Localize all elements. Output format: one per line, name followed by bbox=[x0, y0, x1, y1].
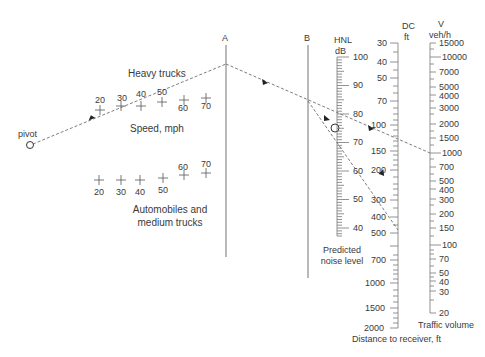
auto-speed-40: 40 bbox=[135, 188, 145, 197]
v-tick-20: 20 bbox=[439, 309, 449, 318]
hnl-tick-60: 60 bbox=[353, 167, 363, 176]
dc-unit: ft bbox=[404, 33, 409, 42]
dc-tick-500: 500 bbox=[371, 229, 386, 238]
hnl-tick-100: 100 bbox=[353, 53, 368, 62]
v-tick-2000: 2000 bbox=[439, 120, 459, 129]
hnl-tick-80: 80 bbox=[353, 110, 363, 119]
v-caption: Traffic volume bbox=[418, 321, 474, 330]
dc-title: DC bbox=[402, 22, 415, 31]
auto-speed-20: 20 bbox=[94, 188, 104, 197]
v-title: V bbox=[438, 20, 444, 29]
heavy-speed-40: 40 bbox=[136, 90, 146, 99]
autos-label-line1: Automobiles and bbox=[133, 204, 208, 215]
heavy-speed-50: 50 bbox=[157, 88, 167, 97]
heavy-speed-60: 60 bbox=[178, 104, 188, 113]
dashed-path-a-to-v bbox=[226, 64, 430, 153]
v-tick-30: 30 bbox=[439, 288, 449, 297]
arrow-icon bbox=[324, 115, 330, 121]
hnl-title: HNL bbox=[334, 36, 352, 45]
heavy-speed-70: 70 bbox=[201, 102, 211, 111]
v-tick-40: 40 bbox=[439, 278, 449, 287]
line-b-label: B bbox=[304, 34, 310, 43]
dc-tick-700: 700 bbox=[371, 256, 386, 265]
hnl-tick-40: 40 bbox=[353, 224, 363, 233]
dc-tick-300: 300 bbox=[371, 196, 386, 205]
v-tick-400: 400 bbox=[439, 186, 454, 195]
hnl-scale-axis bbox=[337, 57, 349, 236]
heavy-trucks-label: Heavy trucks bbox=[128, 69, 186, 79]
dc-tick-30: 30 bbox=[377, 39, 387, 48]
pivot-label: pivot bbox=[18, 130, 37, 139]
autos-label-line2: medium trucks bbox=[137, 217, 202, 228]
dc-tick-200: 200 bbox=[371, 166, 386, 175]
dc-tick-1000: 1000 bbox=[365, 279, 385, 288]
auto-speed-30: 30 bbox=[116, 188, 126, 197]
v-tick-1500: 1500 bbox=[439, 134, 459, 143]
nomograph-drawing bbox=[0, 0, 485, 357]
dc-tick-150: 150 bbox=[371, 147, 386, 156]
dc-scale-axis bbox=[390, 43, 398, 328]
dc-tick-50: 50 bbox=[377, 74, 387, 83]
hnl-tick-90: 90 bbox=[353, 81, 363, 90]
dc-tick-1500: 1500 bbox=[365, 304, 385, 313]
v-tick-700: 700 bbox=[439, 163, 454, 172]
dc-tick-70: 70 bbox=[377, 97, 387, 106]
dc-caption: Distance to receiver, ft bbox=[352, 335, 441, 344]
hnl-tick-70: 70 bbox=[353, 138, 363, 147]
hnl-caption: Predicted noise level bbox=[318, 245, 366, 267]
v-tick-200: 200 bbox=[439, 210, 454, 219]
hnl-unit: dB bbox=[335, 47, 346, 56]
v-tick-7000: 7000 bbox=[439, 68, 459, 77]
v-tick-1000: 1000 bbox=[442, 149, 462, 158]
v-tick-100: 100 bbox=[442, 241, 457, 250]
dc-tick-400: 400 bbox=[371, 213, 386, 222]
dc-tick-40: 40 bbox=[377, 58, 387, 67]
auto-speed-70: 70 bbox=[201, 160, 211, 169]
v-tick-4000: 4000 bbox=[439, 92, 459, 101]
arrow-icon bbox=[87, 114, 95, 120]
hnl-caption-line1: Predicted bbox=[323, 245, 361, 255]
hnl-tick-50: 50 bbox=[353, 195, 363, 204]
dc-tick-100: 100 bbox=[371, 121, 386, 130]
dc-tick-2000: 2000 bbox=[364, 324, 384, 333]
pivot-point bbox=[27, 142, 34, 149]
hnl-caption-line2: noise level bbox=[321, 256, 364, 266]
v-tick-300: 300 bbox=[439, 196, 454, 205]
v-tick-150: 150 bbox=[439, 224, 454, 233]
heavy-speed-20: 20 bbox=[95, 96, 105, 105]
heavy-truck-speed-marks bbox=[95, 93, 211, 115]
v-tick-70: 70 bbox=[439, 255, 449, 264]
auto-speed-marks bbox=[94, 168, 211, 185]
auto-speed-50: 50 bbox=[158, 186, 168, 195]
autos-label: Automobiles and medium trucks bbox=[115, 203, 225, 229]
v-tick-10000: 10000 bbox=[442, 53, 467, 62]
line-a-label: A bbox=[222, 34, 228, 43]
v-tick-3000: 3000 bbox=[439, 104, 459, 113]
v-tick-15000: 15000 bbox=[439, 39, 464, 48]
arrow-icon bbox=[262, 79, 268, 85]
auto-speed-60: 60 bbox=[178, 163, 188, 172]
speed-label: Speed, mph bbox=[130, 124, 184, 134]
heavy-speed-30: 30 bbox=[117, 94, 127, 103]
